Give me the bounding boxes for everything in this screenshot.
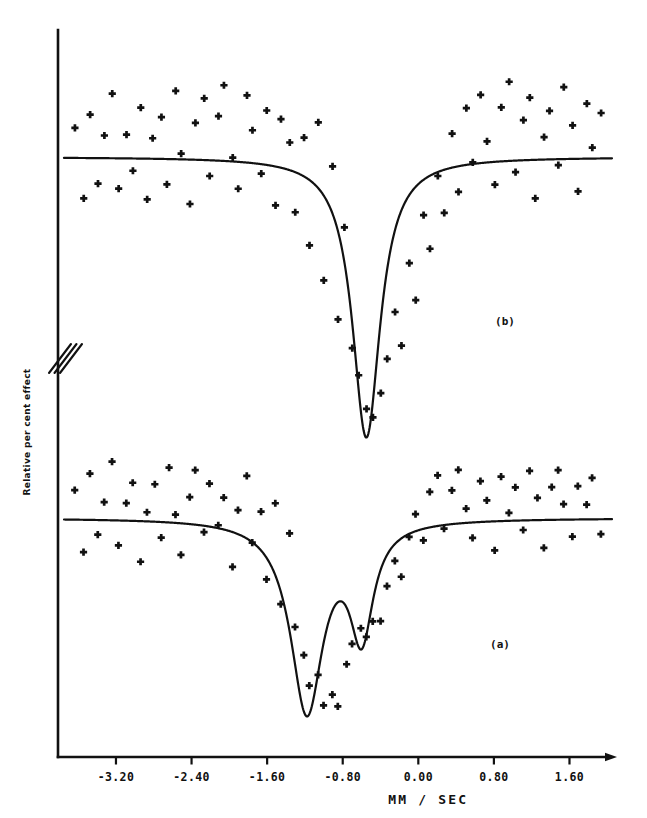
figure-background: [0, 0, 647, 818]
x-axis-tick-label: 0.80: [479, 770, 508, 784]
x-axis-tick-label: 1.60: [555, 770, 584, 784]
plot-canvas: -3.20-2.40-1.60-0.800.000.801.60 MM / SE…: [0, 0, 647, 818]
x-axis-tick-label: -2.40: [173, 770, 210, 784]
y-axis-title: Relative per cent effect: [22, 368, 32, 495]
mossbauer-spectrum-figure: -3.20-2.40-1.60-0.800.000.801.60 MM / SE…: [0, 0, 647, 818]
x-axis-title: MM / SEC: [388, 792, 468, 807]
x-axis-tick-label: -3.20: [98, 770, 135, 784]
x-axis-tick-label: 0.00: [404, 770, 433, 784]
x-axis-tick-label: -1.60: [249, 770, 286, 784]
x-axis-tick-label: -0.80: [324, 770, 361, 784]
panel-a-label: (a): [490, 638, 510, 651]
panel-b-label: (b): [495, 315, 515, 328]
